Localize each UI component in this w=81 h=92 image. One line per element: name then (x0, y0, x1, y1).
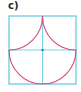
geometry-figure (0, 0, 81, 92)
center-point (41, 49, 44, 52)
